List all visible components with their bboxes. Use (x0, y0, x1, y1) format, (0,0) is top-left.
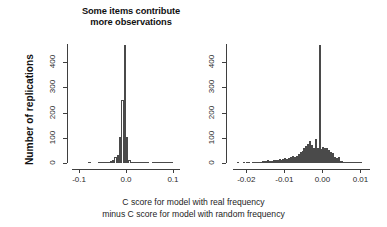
x-axis-tick-label: 0.01 (338, 175, 382, 184)
x-axis-tick (322, 169, 323, 173)
histogram-bar (88, 162, 90, 163)
y-axis-tick-label: 100 (48, 124, 57, 150)
histogram-bar (171, 162, 173, 163)
histogram-bar (319, 45, 321, 163)
y-axis-tick (63, 138, 67, 139)
panel-right-plot-area (233, 42, 370, 163)
x-axis-tick (126, 169, 127, 173)
y-axis-tick (222, 163, 226, 164)
x-axis-tick (173, 169, 174, 173)
histogram-bar (248, 162, 250, 163)
y-axis-tick-label: 400 (207, 49, 216, 75)
y-axis-tick-label: 100 (207, 124, 216, 150)
y-axis-tick (222, 87, 226, 88)
y-axis-tick (222, 138, 226, 139)
y-axis-tick (63, 87, 67, 88)
y-axis-tick (222, 113, 226, 114)
y-axis-tick (63, 62, 67, 63)
caption-line-2: minus C score for model with random freq… (0, 209, 387, 221)
y-axis-tick-label: 0 (207, 150, 216, 176)
y-axis-tick-label: 200 (48, 99, 57, 125)
x-axis-line (233, 169, 370, 170)
x-axis-tick-label: -0.1 (57, 175, 101, 184)
x-axis-tick (246, 169, 247, 173)
panel-right: All items contribute n observations -0.0… (190, 0, 387, 227)
panel-right-bars (233, 42, 370, 163)
panel-left-bars (72, 42, 180, 163)
y-axis-tick (222, 62, 226, 63)
panel-left-title-line1: Some items contribute (56, 6, 206, 17)
y-axis-tick-label: 0 (48, 150, 57, 176)
panel-left-title: Some items contribute more observations (56, 6, 206, 28)
panel-left-plot-area (72, 42, 180, 163)
histogram-bar (237, 162, 239, 163)
histogram-bar (243, 162, 245, 163)
y-axis-tick-label: 400 (48, 49, 57, 75)
histogram-bar (126, 137, 128, 163)
x-axis-tick (284, 169, 285, 173)
panel-left-title-line2: more observations (56, 17, 206, 28)
y-axis-tick (63, 163, 67, 164)
caption-line-1: C score for model with real frequency (0, 197, 387, 209)
x-axis-caption: C score for model with real frequency mi… (0, 197, 387, 220)
x-axis-tick-label: 0.0 (104, 175, 148, 184)
histogram-bar (360, 162, 362, 163)
y-axis-tick-label: 200 (207, 99, 216, 125)
x-axis-tick (79, 169, 80, 173)
histogram-figure: Number of replications Some items contri… (0, 0, 387, 227)
histogram-bar (147, 162, 149, 163)
x-axis-tick (360, 169, 361, 173)
y-axis-tick-label: 300 (48, 74, 57, 100)
y-axis-tick-label: 300 (207, 74, 216, 100)
y-axis-tick (63, 113, 67, 114)
panel-left: Some items contribute more observations … (0, 0, 200, 227)
y-axis-line (226, 44, 227, 163)
y-axis-line (67, 44, 68, 163)
x-axis-tick-label: 0.1 (151, 175, 195, 184)
